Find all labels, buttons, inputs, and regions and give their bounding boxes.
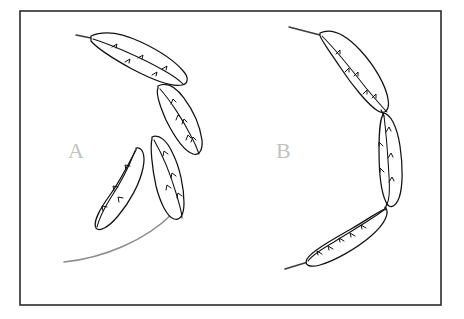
panel-a-label: A [68, 138, 84, 163]
figure-container: A B [0, 0, 464, 319]
panel-b-label: B [276, 138, 291, 163]
figure-canvas: A B [0, 0, 464, 319]
